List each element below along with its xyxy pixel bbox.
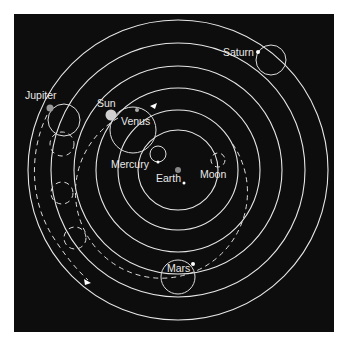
mercury-dot xyxy=(157,161,160,164)
label-venus: Venus xyxy=(121,115,150,127)
saturn-epicycle xyxy=(256,45,286,75)
label-mars: Mars xyxy=(167,262,190,274)
arrow-icon xyxy=(150,103,157,109)
label-moon: Moon xyxy=(200,168,226,180)
moon-dot xyxy=(183,182,186,185)
mars-dot xyxy=(191,262,195,266)
jupiter-dot xyxy=(47,105,54,112)
label-earth: Earth xyxy=(156,172,181,184)
epicycles xyxy=(48,45,286,294)
label-sun: Sun xyxy=(97,97,116,109)
label-saturn: Saturn xyxy=(223,46,254,58)
label-mercury: Mercury xyxy=(111,158,150,170)
label-jupiter: Jupiter xyxy=(25,89,57,101)
saturn-dot xyxy=(256,50,260,54)
geocentric-diagram: Saturn Jupiter Sun Venus Mercury Earth M… xyxy=(0,0,343,337)
jupiter-retrograde-path xyxy=(34,115,91,285)
sun-dot xyxy=(106,110,117,121)
venus-dot xyxy=(135,108,139,112)
mercury-epicycle xyxy=(150,146,166,162)
